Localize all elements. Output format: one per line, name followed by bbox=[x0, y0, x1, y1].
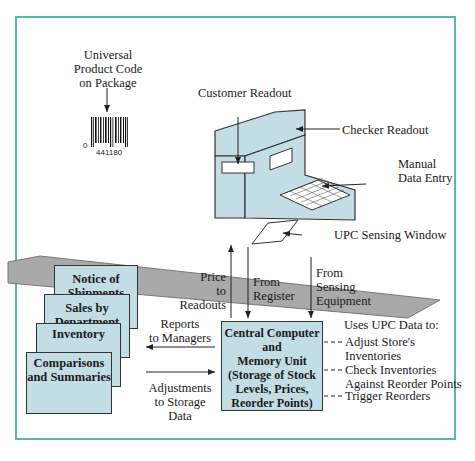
upc-label: UniversalProduct Codeon Package bbox=[70, 48, 146, 90]
use-check: Check InventoriesAgainst Reorder Points bbox=[345, 363, 462, 391]
central-computer-box: Central ComputerandMemory Unit (Storage … bbox=[221, 321, 323, 411]
barcode bbox=[91, 117, 128, 147]
barcode-left-digit: 0 bbox=[83, 139, 87, 153]
checker-readout-label: Checker Readout bbox=[342, 123, 428, 137]
adjustments-label: Adjustmentsto StorageData bbox=[145, 381, 215, 423]
price-to-readouts-label: PricetoReadouts bbox=[160, 270, 226, 312]
from-sensing-label: FromSensingEquipment bbox=[316, 266, 371, 308]
customer-readout-label: Customer Readout bbox=[198, 86, 291, 100]
from-register-label: FromRegister bbox=[253, 275, 295, 303]
use-adjust: Adjust Store'sInventories bbox=[345, 335, 415, 363]
uses-upc-label: Uses UPC Data to: bbox=[344, 318, 439, 332]
reports-to-managers-label: Reportsto Managers bbox=[145, 317, 215, 345]
cash-register bbox=[215, 110, 355, 220]
report-comparisons-summaries: Comparisonsand Summaries bbox=[26, 352, 112, 414]
use-trigger: Trigger Reorders bbox=[345, 389, 430, 403]
barcode-digits: 441180 bbox=[96, 146, 122, 160]
sensing-window-label: UPC Sensing Window bbox=[334, 228, 446, 242]
manual-entry-label: ManualData Entry bbox=[398, 157, 453, 185]
sensing-window bbox=[252, 220, 298, 244]
